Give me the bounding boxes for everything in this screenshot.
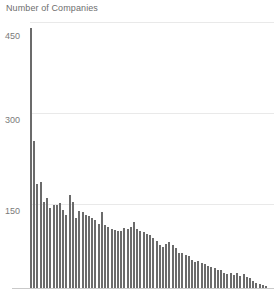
bar [46, 198, 48, 288]
bar [65, 215, 67, 288]
bar [191, 260, 193, 288]
bar [175, 248, 177, 288]
bar [243, 274, 245, 288]
gridline-450 [30, 22, 274, 23]
bar [98, 224, 100, 288]
bar [56, 205, 58, 288]
bar [85, 215, 87, 288]
bar [210, 267, 212, 288]
y-tick-label-300: 300 [5, 115, 20, 125]
bar [101, 212, 103, 288]
bar [201, 263, 203, 288]
bar [217, 270, 219, 288]
bar [127, 229, 129, 288]
bar [194, 262, 196, 288]
bar [204, 264, 206, 288]
bar [162, 247, 164, 288]
bar [149, 235, 151, 288]
bar [252, 281, 254, 288]
gridline-150 [30, 204, 274, 205]
bar [133, 222, 135, 288]
bar [178, 253, 180, 288]
bar [94, 220, 96, 288]
bar [91, 218, 93, 288]
bar [88, 216, 90, 288]
bar [143, 232, 145, 288]
bar [233, 275, 235, 288]
bar [117, 231, 119, 288]
histogram-chart: Number of Companies 450 300 150 [0, 0, 274, 295]
bar [181, 253, 183, 288]
bar [188, 256, 190, 288]
bar [78, 211, 80, 288]
bar [239, 276, 241, 288]
bar [111, 229, 113, 288]
bar [230, 273, 232, 288]
bar [53, 205, 55, 288]
bar [36, 184, 38, 288]
bar [207, 266, 209, 288]
bar [62, 210, 64, 288]
bar [30, 28, 32, 288]
bar [130, 227, 132, 288]
bar [197, 261, 199, 288]
y-tick-label-450: 450 [5, 31, 20, 41]
plot-area: 450 300 150 [0, 0, 274, 295]
bar [223, 273, 225, 288]
bar [120, 231, 122, 288]
bar [72, 202, 74, 288]
bar [214, 268, 216, 288]
y-tick-label-150: 150 [5, 206, 20, 216]
bar [226, 274, 228, 288]
bar [59, 203, 61, 288]
bar [33, 141, 35, 288]
bar [75, 218, 77, 288]
bar [49, 208, 51, 288]
bar [82, 212, 84, 288]
bar [168, 242, 170, 288]
bar [114, 230, 116, 288]
bar [69, 195, 71, 288]
bar [236, 273, 238, 288]
bar [220, 270, 222, 288]
bar [156, 241, 158, 288]
bar [185, 255, 187, 288]
bar [146, 234, 148, 288]
bar [104, 225, 106, 288]
bar [123, 228, 125, 288]
x-axis-line [12, 288, 274, 289]
bar [107, 227, 109, 288]
bar [165, 244, 167, 288]
gridline-300 [30, 113, 274, 114]
bar [249, 278, 251, 288]
bar [172, 245, 174, 288]
bar [136, 229, 138, 288]
bar [152, 238, 154, 288]
bar [246, 277, 248, 288]
bar [43, 202, 45, 288]
bar [139, 231, 141, 288]
bar [159, 245, 161, 288]
bar [40, 182, 42, 288]
